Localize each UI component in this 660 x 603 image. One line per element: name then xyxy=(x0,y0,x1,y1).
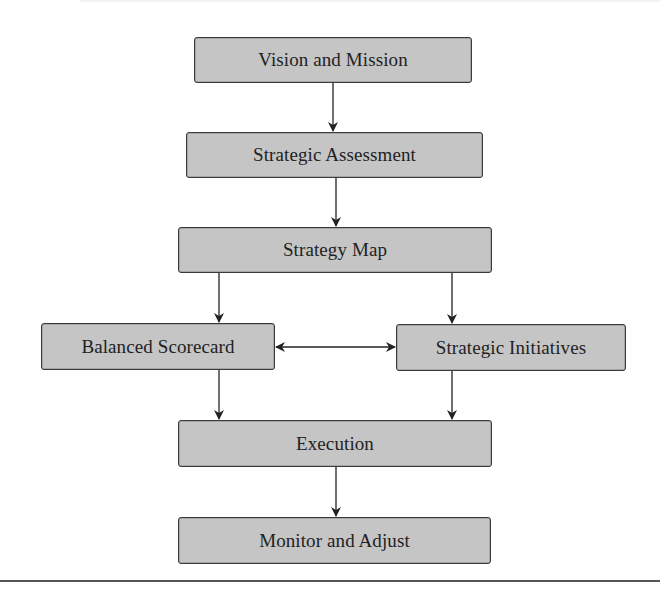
connector-layer xyxy=(0,0,660,603)
node-strategic-assessment: Strategic Assessment xyxy=(186,132,483,178)
node-label: Execution xyxy=(296,433,374,455)
node-label: Strategy Map xyxy=(283,239,387,261)
node-monitor-and-adjust: Monitor and Adjust xyxy=(178,517,491,564)
node-label: Monitor and Adjust xyxy=(259,530,410,552)
node-label: Strategic Initiatives xyxy=(436,337,586,359)
node-execution: Execution xyxy=(178,420,492,467)
node-label: Strategic Assessment xyxy=(253,144,416,166)
node-strategic-initiatives: Strategic Initiatives xyxy=(396,324,626,371)
node-label: Balanced Scorecard xyxy=(81,336,234,358)
node-vision-and-mission: Vision and Mission xyxy=(194,37,472,83)
bottom-divider-rule xyxy=(0,580,660,582)
node-strategy-map: Strategy Map xyxy=(178,227,492,273)
node-balanced-scorecard: Balanced Scorecard xyxy=(41,323,275,370)
node-label: Vision and Mission xyxy=(258,49,408,71)
